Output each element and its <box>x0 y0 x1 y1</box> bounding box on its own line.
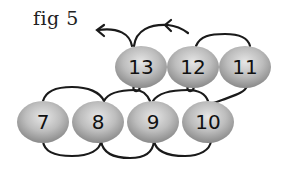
bead-7: 7 <box>17 101 69 143</box>
bead-12: 12 <box>167 46 219 88</box>
bead-9-label: 9 <box>147 110 160 134</box>
bead-10-label: 10 <box>195 110 220 134</box>
thread-top-arrows <box>97 20 250 46</box>
bead-10: 10 <box>182 101 234 143</box>
bead-13-label: 13 <box>128 55 153 79</box>
bead-8: 8 <box>72 101 124 143</box>
bead-13: 13 <box>115 46 167 88</box>
bead-12-label: 12 <box>180 55 205 79</box>
bead-9: 9 <box>127 101 179 143</box>
bead-11-label: 11 <box>232 55 257 79</box>
thread-bottom <box>43 141 211 158</box>
bead-11: 11 <box>219 46 271 88</box>
bead-8-label: 8 <box>92 110 105 134</box>
bead-diagram: 13 12 11 7 8 9 10 <box>0 0 290 173</box>
bead-7-label: 7 <box>37 110 50 134</box>
